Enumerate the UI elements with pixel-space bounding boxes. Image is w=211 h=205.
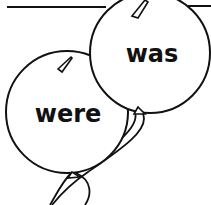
balloon-was: was [90, 0, 210, 114]
balloon-word-were: were [35, 100, 102, 128]
balloon-word-was: was [126, 40, 179, 68]
balloon-illustration: were was [0, 0, 211, 205]
